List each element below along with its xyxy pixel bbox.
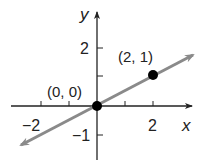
graph-line [21, 55, 193, 145]
x-axis-label: x [181, 116, 191, 135]
point-origin [92, 101, 102, 111]
point-label-origin: (0, 0) [47, 83, 82, 100]
point-label-2-1: (2, 1) [118, 48, 153, 65]
y-axis-label: y [79, 5, 90, 24]
tick-label-x-2: 2 [148, 117, 157, 134]
point-2-1 [148, 70, 158, 80]
tick-label-x-neg2: −2 [22, 117, 40, 134]
coordinate-plot: y x −2 2 2 −1 (0, 0) (2, 1) [0, 0, 199, 160]
tick-label-y-2: 2 [80, 40, 89, 57]
tick-label-y-neg1: −1 [72, 127, 90, 144]
